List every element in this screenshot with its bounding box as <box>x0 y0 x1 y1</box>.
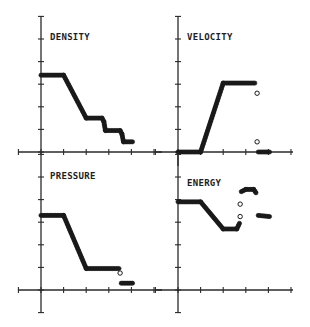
data-point-velocity <box>267 150 271 154</box>
data-point-energy <box>238 202 242 206</box>
data-point-energy <box>254 191 258 195</box>
data-point-energy <box>267 214 271 218</box>
data-point-density <box>130 140 134 144</box>
data-point-pressure <box>118 271 122 275</box>
panel-title-energy: ENERGY <box>187 178 222 188</box>
data-point-energy <box>238 214 242 218</box>
data-point-velocity <box>253 81 257 85</box>
panel-title-density: DENSITY <box>50 32 90 42</box>
panel-title-velocity: VELOCITY <box>187 32 233 42</box>
data-point-pressure <box>117 266 121 270</box>
panel-energy: ENERGY <box>155 152 293 313</box>
data-point-pressure <box>130 281 134 285</box>
panel-velocity: VELOCITY <box>155 16 293 166</box>
data-point-energy <box>237 221 241 225</box>
panel-pressure: PRESSURE <box>18 152 162 313</box>
data-point-velocity <box>255 140 259 144</box>
panel-density: DENSITY <box>18 16 162 155</box>
data-point-velocity <box>255 91 259 95</box>
shock-tube-chart: DENSITY VELOCITY PRESSURE ENERGY <box>0 0 310 327</box>
panel-title-pressure: PRESSURE <box>50 171 96 181</box>
